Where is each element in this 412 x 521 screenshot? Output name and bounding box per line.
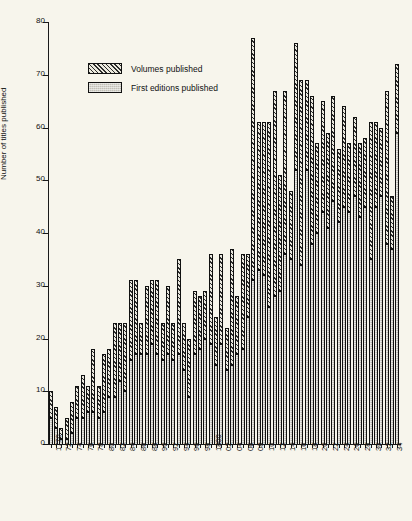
bar-segment-volumes (353, 117, 357, 196)
bar-segment-volumes (305, 80, 309, 170)
bar-segment-volumes (395, 64, 399, 133)
x-tick-mark (328, 444, 329, 448)
bar-segment-volumes (177, 259, 181, 354)
bar-segment-first-editions (139, 354, 143, 444)
x-tick-mark (243, 444, 244, 448)
bar (395, 64, 399, 444)
x-tick-mark (307, 444, 308, 448)
bar (107, 349, 111, 444)
bar-segment-volumes (155, 280, 159, 354)
bar (299, 80, 303, 444)
bar-segment-volumes (315, 143, 319, 233)
bar (337, 149, 341, 444)
bar-segment-volumes (363, 138, 367, 207)
bar (139, 323, 143, 444)
bar (49, 391, 53, 444)
x-tick-mark (184, 444, 185, 448)
bar (177, 259, 181, 444)
bar (315, 143, 319, 444)
bar-segment-volumes (326, 133, 330, 228)
x-tick-mark (131, 444, 132, 448)
bar-segment-first-editions (214, 365, 218, 444)
bar-segment-first-editions (241, 349, 245, 444)
x-tick-mark (205, 444, 206, 448)
bar-segment-volumes (337, 149, 341, 223)
bar-segment-first-editions (187, 397, 191, 444)
bar-segment-volumes (257, 122, 261, 270)
bar (102, 354, 106, 444)
bar-segment-first-editions (118, 381, 122, 444)
bar (305, 80, 309, 444)
bar-segment-volumes (289, 191, 293, 260)
bar-segment-volumes (118, 323, 122, 381)
legend-item: Volumes published (88, 62, 218, 75)
x-tick-mark (301, 444, 302, 448)
bar-segment-volumes (70, 402, 74, 434)
bar-segment-first-editions (262, 275, 266, 444)
bar (235, 296, 239, 444)
bar-segment-first-editions (171, 360, 175, 444)
gray-swatch-icon (88, 82, 122, 93)
x-tick-mark (195, 444, 196, 448)
x-tick-mark (387, 444, 388, 448)
bar-segment-volumes (273, 91, 277, 297)
bar-segment-first-editions (91, 412, 95, 444)
bar-segment-first-editions (246, 317, 250, 444)
bar-segment-first-editions (235, 354, 239, 444)
x-tick-mark (312, 444, 313, 448)
bar (363, 138, 367, 444)
bar (358, 143, 362, 444)
bar-segment-volumes (81, 375, 85, 417)
bar-segment-first-editions (209, 344, 213, 444)
x-tick-mark (237, 444, 238, 448)
bar-segment-volumes (230, 249, 234, 365)
x-tick-mark (157, 444, 158, 448)
bar (203, 291, 207, 444)
y-tick-label: 40 (36, 227, 45, 236)
bar (134, 280, 138, 444)
bar-segment-volumes (283, 91, 287, 255)
x-tick-mark (77, 444, 78, 448)
bar-segment-volumes (209, 254, 213, 344)
bar-segment-first-editions (347, 212, 351, 444)
bar-segment-volumes (129, 280, 133, 359)
x-tick-mark (67, 444, 68, 448)
bar (214, 317, 218, 444)
bar (369, 122, 373, 444)
bar (225, 328, 229, 444)
x-tick-mark (216, 444, 217, 448)
bar-segment-first-editions (102, 412, 106, 444)
x-tick-mark (163, 444, 164, 448)
bar (353, 117, 357, 444)
bar (123, 323, 127, 444)
bar-segment-first-editions (97, 418, 101, 444)
y-tick-label: 0 (41, 438, 45, 447)
x-tick-mark (88, 444, 89, 448)
x-tick-mark (56, 444, 57, 448)
x-tick-mark (104, 444, 105, 448)
bar (262, 122, 266, 444)
bar-segment-first-editions (129, 360, 133, 444)
bar (273, 91, 277, 444)
bar-segment-first-editions (363, 207, 367, 444)
bar (294, 43, 298, 444)
bar (326, 133, 330, 444)
x-tick-mark (99, 444, 100, 448)
bar-segment-first-editions (310, 244, 314, 444)
y-tick-label: 80 (36, 16, 45, 25)
bar-segment-first-editions (374, 207, 378, 444)
x-tick-mark (61, 444, 62, 448)
bar-segment-first-editions (86, 412, 90, 444)
bar (65, 418, 69, 444)
x-tick-mark (189, 444, 190, 448)
x-tick-mark (141, 444, 142, 448)
bar-segment-volumes (187, 339, 191, 397)
bar (241, 254, 245, 444)
bar-segment-first-editions (230, 365, 234, 444)
bar-segment-volumes (107, 349, 111, 396)
bar-segment-first-editions (134, 354, 138, 444)
bar-segment-volumes (219, 254, 223, 344)
x-tick-mark (376, 444, 377, 448)
bar-segment-first-editions (353, 196, 357, 444)
bar-segment-first-editions (161, 360, 165, 444)
